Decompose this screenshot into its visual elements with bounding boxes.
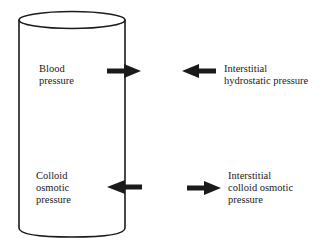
interstitial-colloid-osmotic-label: Interstitial colloid osmotic pressure bbox=[228, 170, 293, 206]
interstitial-hydrostatic-label: Interstitial hydrostatic pressure bbox=[224, 63, 308, 87]
capillary-cylinder bbox=[19, 12, 125, 238]
blood-pressure-label: Blood pressure bbox=[39, 63, 74, 87]
blood-pressure-arrow bbox=[107, 64, 141, 78]
interstitial-colloid-osmotic-arrow bbox=[187, 181, 221, 195]
interstitial-hydrostatic-arrow bbox=[182, 64, 216, 78]
colloid-osmotic-arrow bbox=[107, 180, 142, 194]
capillary-diagram bbox=[0, 0, 326, 248]
colloid-osmotic-label: Colloid osmotic pressure bbox=[36, 170, 71, 206]
